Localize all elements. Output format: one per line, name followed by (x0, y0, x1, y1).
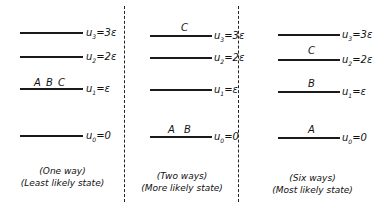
panel-two-ways: C u3=3ε u2=2ε u1=ε A B u0=0 (Two ways) (… (126, 0, 238, 207)
energy-level-u1 (150, 89, 212, 91)
energy-label-u1: u1=ε (214, 85, 238, 99)
particles-on-u2: C (308, 46, 316, 56)
caption-likelihood: (Least likely state) (0, 177, 125, 189)
energy-level-u3 (20, 32, 83, 34)
energy-level-u1 (20, 88, 83, 90)
energy-label-u2: u2=2ε (86, 52, 116, 66)
caption-likelihood: (More likely state) (126, 182, 238, 194)
energy-level-u3 (278, 34, 340, 36)
panel-six-ways: u3=3ε C u2=2ε B u1=ε A u0=0 (Six ways) (… (240, 0, 385, 207)
particles-on-u1: A B C (34, 78, 66, 88)
panel-one-way: u3=3ε u2=2ε A B C u1=ε u0=0 (One way) (L… (0, 0, 125, 207)
energy-level-u3 (150, 35, 212, 37)
energy-level-u2 (150, 57, 212, 59)
caption-ways: (Two ways) (126, 170, 238, 182)
dashed-divider-1 (124, 6, 125, 202)
energy-label-u0: u0=0 (214, 132, 239, 146)
energy-level-u0 (20, 135, 83, 137)
energy-label-u2: u2=2ε (342, 55, 372, 69)
energy-level-u0 (150, 136, 212, 138)
energy-level-u0 (278, 137, 340, 139)
caption-likelihood: (Most likely state) (240, 184, 385, 196)
energy-label-u1: u1=ε (342, 87, 366, 101)
energy-label-u3: u3=3ε (342, 30, 372, 44)
energy-label-u0: u0=0 (86, 131, 111, 145)
particles-on-u0: A B (168, 125, 194, 135)
dashed-divider-2 (238, 6, 239, 202)
energy-level-u2 (20, 56, 83, 58)
caption-ways: (Six ways) (240, 172, 385, 184)
energy-label-u3: u3=3ε (86, 28, 116, 42)
particles-on-u1: B (308, 79, 316, 89)
particles-on-u0: A (308, 125, 316, 135)
energy-level-u1 (278, 91, 340, 93)
energy-level-u2 (278, 59, 340, 61)
caption-ways: (One way) (0, 165, 125, 177)
energy-label-u0: u0=0 (342, 133, 367, 147)
energy-label-u1: u1=ε (86, 84, 110, 98)
particles-on-u3: C (181, 23, 189, 33)
